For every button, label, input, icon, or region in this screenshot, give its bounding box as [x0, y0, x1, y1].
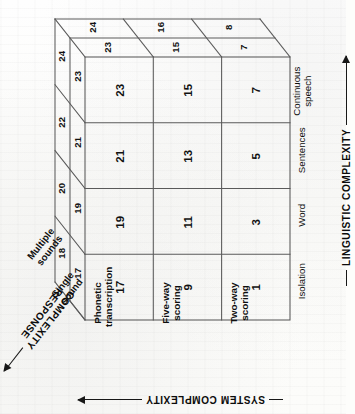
axis-system-line: [78, 400, 142, 401]
axis-system-leader-line: [269, 400, 283, 401]
axis-linguistic-arrow-icon: [342, 55, 350, 63]
cell-front-r3c2: 1: [250, 280, 262, 294]
cell-front-r3c1: 9: [182, 280, 194, 294]
colhead-five-way-scoring-line1: Five-way: [160, 279, 171, 327]
cell-top-inner-i2: 7: [239, 40, 249, 54]
colhead-phonetic-transcription: Phonetic transcription: [92, 279, 114, 327]
axis-system-complexity: SYSTEM COMPLEXITY: [78, 392, 283, 408]
axis-linguistic-line: [346, 56, 347, 125]
cell-top-t1: 16: [156, 20, 166, 34]
colhead-phonetic-transcription-line1: Phonetic: [92, 279, 103, 327]
cell-side-inner-n0: 23: [73, 69, 83, 83]
cell-front-r0c2: 7: [250, 83, 262, 97]
tick-linguistic-sentences: Sentences: [297, 120, 307, 180]
cell-side-outer-s3: 18: [57, 246, 67, 260]
cell-front-r1c2: 5: [250, 149, 262, 163]
cell-side-inner-n2: 19: [73, 201, 83, 215]
colhead-two-way-scoring-line1: Two-way: [228, 279, 239, 327]
tick-linguistic-isolation: Isolation: [297, 251, 307, 311]
cell-side-outer-s1: 22: [57, 115, 67, 129]
cell-front-r2c2: 3: [250, 215, 262, 229]
axis-system-complexity-label: SYSTEM COMPLEXITY: [146, 395, 265, 406]
colhead-five-way-scoring: Five-way scoring: [160, 279, 182, 327]
cell-top-inner-i1: 15: [171, 40, 181, 54]
cell-top-t0: 24: [88, 20, 98, 34]
axis-system-arrow-icon: [77, 396, 85, 404]
axis-linguistic-complexity: LINGUISTIC COMPLEXITY: [337, 56, 355, 286]
cell-top-inner-i0: 23: [103, 40, 113, 54]
cell-front-r1c0: 21: [114, 149, 126, 163]
colhead-two-way-scoring-line2: scoring: [239, 279, 250, 327]
colhead-phonetic-transcription-line2: transcription: [103, 279, 114, 327]
cell-top-t2: 8: [224, 20, 234, 34]
cell-front-r1c1: 13: [182, 149, 194, 163]
cell-front-r2c1: 11: [182, 215, 194, 229]
cell-front-r0c1: 15: [182, 83, 194, 97]
axis-linguistic-leader-line: [346, 270, 347, 286]
cell-front-r0c0: 23: [114, 83, 126, 97]
cell-side-inner-n1: 21: [73, 135, 83, 149]
tick-linguistic-continuous-speech: Continuous speech: [291, 61, 313, 121]
colhead-five-way-scoring-line2: scoring: [171, 279, 182, 327]
axis-response-line: [4, 347, 23, 371]
tick-linguistic-word: Word: [297, 185, 307, 245]
cell-side-outer-s0: 24: [57, 49, 67, 63]
cell-front-r3c0: 17: [114, 280, 126, 294]
cell-side-outer-s2: 20: [57, 181, 67, 195]
colhead-two-way-scoring: Two-way scoring: [228, 279, 250, 327]
axis-linguistic-complexity-label: LINGUISTIC COMPLEXITY: [341, 129, 352, 266]
cell-front-r2c0: 19: [114, 215, 126, 229]
